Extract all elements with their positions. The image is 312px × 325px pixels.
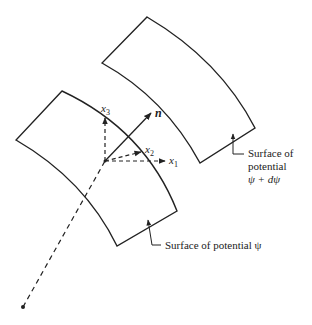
diagram-canvas: x3 n x2 x1 Surface of potential ψ + dψ S… (0, 0, 312, 325)
point-dot (21, 305, 25, 309)
x2-axis-arrow (105, 152, 141, 161)
leader-surface-psi-dpsi (233, 134, 244, 154)
x1-label: x1 (168, 154, 178, 169)
position-vector-dashed (23, 161, 105, 307)
normal-label: n (155, 106, 162, 120)
surface-psi-dpsi-label: Surface of potential ψ + dψ (248, 147, 296, 185)
surface-psi-label: Surface of potential ψ (165, 239, 261, 251)
surface-psi (16, 91, 177, 246)
